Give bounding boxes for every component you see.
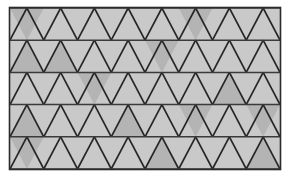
figure-canvas	[0, 0, 290, 181]
triangular-tiling-diagram	[0, 0, 290, 181]
tiling-fills	[10, 8, 280, 169]
tiling-base-fill	[10, 8, 280, 169]
